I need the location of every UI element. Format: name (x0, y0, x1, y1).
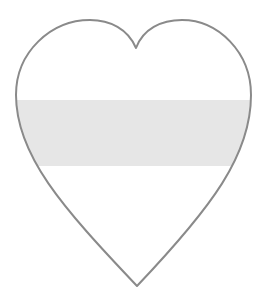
shaded-band (0, 100, 265, 166)
heart-figure-canvas (0, 0, 265, 301)
heart-figure (0, 0, 265, 301)
